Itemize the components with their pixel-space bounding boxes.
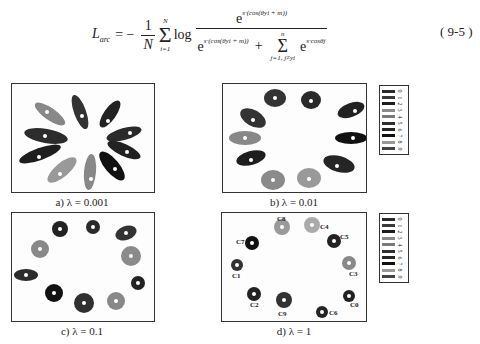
- figure-panel-a: [11, 83, 155, 193]
- cluster-label: C8: [277, 215, 286, 223]
- legend-bottom: 0 1 2 3 4 5 6 7 8 9: [379, 213, 409, 283]
- feature-clusters-a: [17, 93, 143, 190]
- cluster-label: C5: [340, 233, 349, 241]
- figure-panel-b: [222, 83, 367, 193]
- feature-clusters-c: [14, 220, 145, 313]
- legend-top: 0 1 2 3 4 5 6 7 8 9: [379, 85, 409, 155]
- figure-panel-d: C8 C4 C7 C5 C1 C3 C2 C9 C0 C6: [221, 212, 367, 322]
- legend-item-9: 9: [382, 274, 406, 280]
- cluster-labels-d: C8 C4 C7 C5 C1 C3 C2 C9 C0 C6: [232, 215, 359, 318]
- cluster-label: C6: [329, 309, 338, 317]
- caption-a: a) λ = 0.001: [2, 196, 162, 208]
- cluster-label: C1: [232, 272, 241, 280]
- equation-9-5: Larc = − 1 N N Σ i=1 log es·(cos(θyi + m…: [0, 0, 480, 70]
- feature-clusters-b: [229, 89, 366, 190]
- caption-d: d) λ = 1: [214, 325, 374, 337]
- summation-j: n Σ j=1, j≠yi: [271, 30, 296, 62]
- cluster-label: C0: [350, 301, 359, 309]
- loss-symbol: Larc: [92, 26, 110, 44]
- coefficient-fraction: 1 N: [141, 18, 154, 53]
- arcface-loss-formula: Larc = − 1 N N Σ i=1 log es·(cos(θyi + m…: [92, 6, 329, 64]
- legend-item-9: 9: [382, 146, 406, 152]
- caption-c: c) λ = 0.1: [2, 325, 162, 337]
- summation-i: N Σ i=1: [159, 17, 172, 53]
- figure-panel-c: [11, 212, 155, 322]
- cluster-label: C9: [278, 310, 287, 318]
- cluster-label: C7: [236, 238, 245, 246]
- equation-number: ( 9-5 ): [440, 24, 473, 40]
- cluster-label: C3: [349, 270, 358, 278]
- main-fraction: es·(cos(θyi + m)) es·(cos(θyi + m)) + n …: [196, 9, 328, 62]
- cluster-label: C4: [320, 223, 329, 231]
- equals-sign: = −: [115, 27, 134, 43]
- caption-b: b) λ = 0.01: [214, 196, 374, 208]
- log-operator: log: [174, 27, 192, 43]
- cluster-label: C2: [250, 301, 259, 309]
